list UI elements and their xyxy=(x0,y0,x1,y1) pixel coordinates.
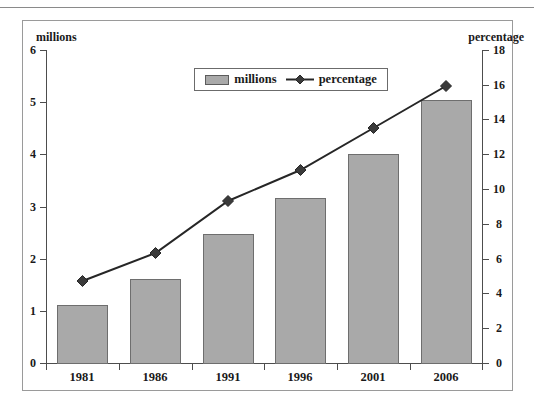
right-axis-tick-label: 8 xyxy=(496,218,502,230)
left-axis-tick-label: 0 xyxy=(30,357,36,369)
right-axis-tick-label: 2 xyxy=(496,322,502,334)
right-tick-mark xyxy=(483,363,489,364)
right-axis-tick-label: 16 xyxy=(493,79,505,91)
x-axis-label-1986: 1986 xyxy=(125,371,185,384)
left-axis-tick-label: 5 xyxy=(30,96,36,108)
legend-entry-percentage[interactable]: percentage xyxy=(286,73,377,86)
left-axis-tick-label: 1 xyxy=(30,305,36,317)
x-tick-mark xyxy=(119,364,120,370)
left-tick-mark xyxy=(40,50,46,51)
x-tick-mark xyxy=(337,364,338,370)
legend-label-percentage: percentage xyxy=(319,73,377,86)
x-tick-mark xyxy=(482,364,483,370)
left-y-axis-line xyxy=(46,50,47,364)
x-tick-mark xyxy=(410,364,411,370)
x-axis-label-2001: 2001 xyxy=(343,371,403,384)
right-axis-tick-label: 6 xyxy=(496,253,502,265)
bar-1986[interactable] xyxy=(130,279,181,364)
bar-2001[interactable] xyxy=(348,154,399,364)
left-tick-mark xyxy=(40,154,46,155)
left-axis-tick-label: 2 xyxy=(30,253,36,265)
left-axis-tick-label: 6 xyxy=(30,44,36,56)
x-axis-label-2006: 2006 xyxy=(416,371,476,384)
right-tick-mark xyxy=(483,189,489,190)
right-axis-title: percentage xyxy=(468,31,524,43)
chart-page: millions percentage 6 5 4 3 2 1 0 18 16 … xyxy=(0,0,534,406)
page-top-divider xyxy=(0,7,534,8)
right-axis-tick-label: 10 xyxy=(493,183,505,195)
bar-1991[interactable] xyxy=(203,234,254,364)
left-axis-tick-label: 4 xyxy=(30,148,36,160)
right-tick-mark xyxy=(483,50,489,51)
right-tick-mark xyxy=(483,328,489,329)
right-y-axis-line xyxy=(482,50,483,364)
right-tick-mark xyxy=(483,119,489,120)
right-axis-tick-label: 4 xyxy=(496,287,502,299)
bar-1996[interactable] xyxy=(275,198,326,364)
right-axis-tick-label: 0 xyxy=(496,357,502,369)
right-axis-tick-label: 14 xyxy=(493,113,505,125)
x-tick-mark xyxy=(264,364,265,370)
bar-swatch-icon xyxy=(205,75,229,85)
right-tick-mark xyxy=(483,85,489,86)
chart-legend: millions percentage xyxy=(194,68,388,91)
left-tick-mark xyxy=(40,259,46,260)
bar-1981[interactable] xyxy=(57,305,108,364)
x-axis-label-1996: 1996 xyxy=(270,371,330,384)
line-diamond-icon xyxy=(286,74,314,85)
left-axis-title: millions xyxy=(36,31,77,43)
left-tick-mark xyxy=(40,102,46,103)
x-tick-mark xyxy=(192,364,193,370)
left-axis-tick-label: 3 xyxy=(30,201,36,213)
left-tick-mark xyxy=(40,311,46,312)
legend-label-millions: millions xyxy=(234,73,276,86)
right-tick-mark xyxy=(483,154,489,155)
x-axis-label-1981: 1981 xyxy=(52,371,112,384)
right-tick-mark xyxy=(483,224,489,225)
right-axis-tick-label: 18 xyxy=(493,44,505,56)
x-axis-label-1991: 1991 xyxy=(198,371,258,384)
left-tick-mark xyxy=(40,207,46,208)
right-tick-mark xyxy=(483,293,489,294)
bar-2006[interactable] xyxy=(421,100,472,364)
right-tick-mark xyxy=(483,259,489,260)
legend-entry-millions[interactable]: millions xyxy=(205,73,276,86)
x-tick-mark xyxy=(46,364,47,370)
right-axis-tick-label: 12 xyxy=(493,148,505,160)
